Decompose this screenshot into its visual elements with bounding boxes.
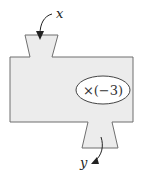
input-label: x <box>56 6 64 21</box>
function-machine-diagram: ×(−3) x y <box>0 0 141 181</box>
output-label: y <box>79 155 88 170</box>
operation-label: ×(−3) <box>83 83 123 98</box>
